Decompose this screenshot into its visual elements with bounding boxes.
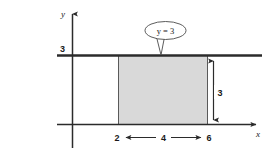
width-dimension-label: 4: [161, 133, 166, 143]
height-dimension-label: 3: [217, 88, 222, 98]
y-axis-label: y: [60, 9, 65, 19]
x-axis-label: x: [255, 129, 260, 139]
x-tick-label-2: 2: [114, 133, 119, 143]
figure-container: y x 3 2 6 4 3 y = 3: [0, 0, 274, 155]
shaded-region: [119, 56, 208, 125]
callout-text: y = 3: [157, 26, 175, 36]
x-tick-label-6: 6: [206, 133, 211, 143]
y-tick-label-3: 3: [60, 44, 65, 54]
graph-canvas: y x 3 2 6 4 3 y = 3: [0, 0, 274, 155]
